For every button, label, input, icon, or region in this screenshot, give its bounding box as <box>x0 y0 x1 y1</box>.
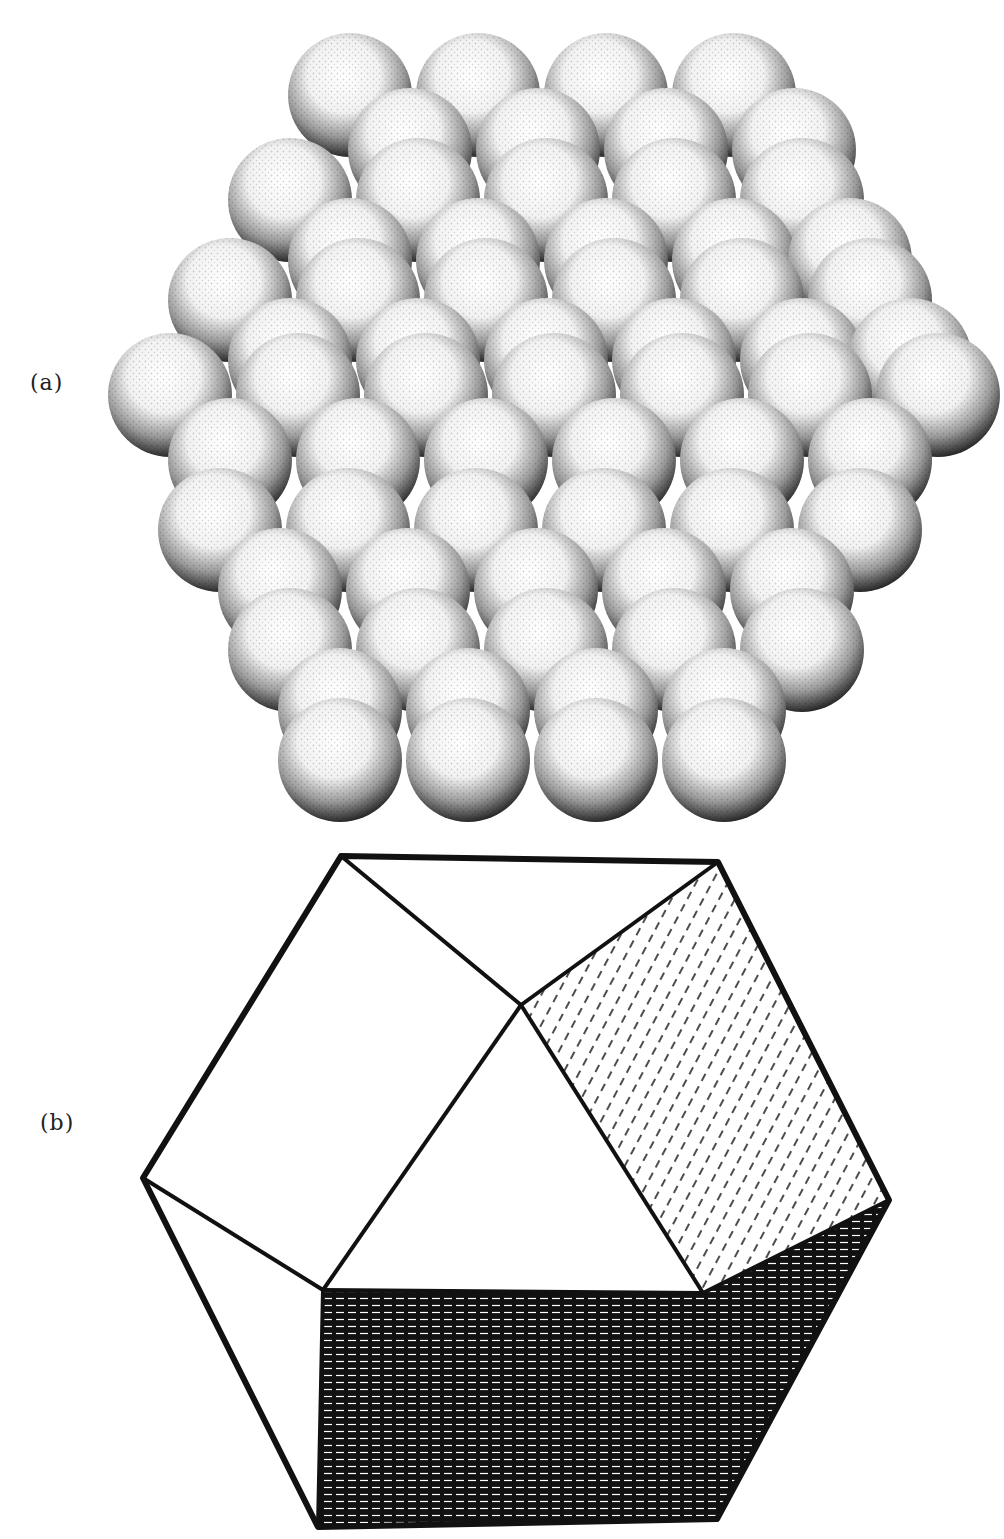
sphere-cluster-illustration <box>108 33 1000 822</box>
figure-canvas <box>0 0 1004 1539</box>
rhombic-dodecahedron-illustration <box>143 856 889 1527</box>
